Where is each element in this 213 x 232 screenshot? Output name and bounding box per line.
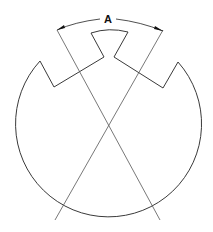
dimension-label: A — [104, 13, 112, 25]
construction-line-right-to-left — [55, 30, 163, 220]
construction-line-left-to-right — [57, 30, 160, 220]
dimension-arrow-left-icon — [57, 25, 65, 30]
key-tab-top-arc — [91, 30, 128, 33]
part-outline-circle-arc — [16, 61, 202, 217]
part-outline-key-profile — [40, 33, 104, 87]
keyed-circle-diagram: A — [0, 0, 213, 232]
dimension-arrow-right-icon — [154, 26, 163, 31]
